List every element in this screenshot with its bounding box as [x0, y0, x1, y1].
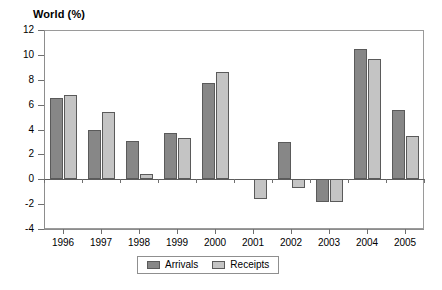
bar-arrivals-2005: [392, 110, 405, 180]
y-axis-line: [44, 30, 45, 229]
y-tick-label: -2: [4, 199, 34, 209]
zero-tick: [424, 179, 425, 183]
x-tick-label: 2002: [280, 238, 302, 248]
y-tick: [38, 55, 44, 56]
y-tick-label: 10: [4, 50, 34, 60]
x-tick-label: 2005: [394, 238, 416, 248]
x-tick-label: 2001: [242, 238, 264, 248]
x-tick: [215, 229, 216, 234]
bar-receipts-1997: [102, 112, 115, 179]
bar-receipts-2002: [292, 179, 305, 188]
y-tick-label: 6: [4, 100, 34, 110]
y-tick-label: 0: [4, 174, 34, 184]
x-tick: [329, 229, 330, 234]
bar-arrivals-2003: [316, 179, 329, 201]
legend-item-arrivals: Arrivals: [147, 260, 198, 270]
x-tick-label: 1996: [52, 238, 74, 248]
zero-tick: [158, 179, 159, 183]
zero-tick: [234, 179, 235, 183]
legend-item-receipts: Receipts: [212, 260, 269, 270]
y-tick: [38, 80, 44, 81]
bar-arrivals-2004: [354, 49, 367, 180]
x-tick: [291, 229, 292, 234]
y-tick-label: 2: [4, 149, 34, 159]
bar-receipts-2003: [330, 179, 343, 201]
x-tick-label: 1998: [128, 238, 150, 248]
zero-tick: [196, 179, 197, 183]
x-tick-label: 2000: [204, 238, 226, 248]
legend-swatch-icon: [147, 261, 160, 269]
bar-receipts-2005: [406, 136, 419, 180]
y-tick-label: 4: [4, 125, 34, 135]
y-tick-label: 12: [4, 25, 34, 35]
x-tick-label: 1997: [90, 238, 112, 248]
y-tick: [38, 204, 44, 205]
bar-arrivals-1997: [88, 130, 101, 180]
bar-arrivals-2000: [202, 83, 215, 179]
zero-tick: [386, 179, 387, 183]
y-tick: [38, 130, 44, 131]
bar-arrivals-1998: [126, 141, 139, 180]
bar-chart: World (%) 121086420-2-4 1996199719981999…: [0, 0, 442, 290]
x-tick: [253, 229, 254, 234]
x-tick: [101, 229, 102, 234]
zero-tick: [82, 179, 83, 183]
y-tick: [38, 105, 44, 106]
chart-title: World (%): [33, 8, 85, 20]
zero-tick: [348, 179, 349, 183]
y-tick: [38, 30, 44, 31]
bar-receipts-2004: [368, 59, 381, 180]
x-tick: [139, 229, 140, 234]
y-tick-label: -4: [4, 224, 34, 234]
chart-legend: ArrivalsReceipts: [137, 256, 279, 274]
x-tick: [63, 229, 64, 234]
legend-label: Arrivals: [165, 260, 198, 270]
bar-arrivals-2002: [278, 142, 291, 179]
bar-receipts-1996: [64, 95, 77, 179]
legend-swatch-icon: [212, 261, 225, 269]
bar-arrivals-1999: [164, 133, 177, 179]
bar-receipts-1998: [140, 174, 153, 179]
bar-receipts-2000: [216, 72, 229, 179]
bar-receipts-2001: [254, 179, 267, 199]
zero-tick: [310, 179, 311, 183]
y-axis-labels: 121086420-2-4: [0, 0, 34, 290]
bar-arrivals-1996: [50, 98, 63, 179]
y-tick: [38, 154, 44, 155]
x-tick-label: 2003: [318, 238, 340, 248]
zero-tick: [44, 179, 45, 183]
bar-receipts-1999: [178, 138, 191, 179]
x-tick-label: 1999: [166, 238, 188, 248]
x-tick: [177, 229, 178, 234]
y-tick-label: 8: [4, 75, 34, 85]
x-tick: [405, 229, 406, 234]
legend-label: Receipts: [230, 260, 269, 270]
x-tick: [367, 229, 368, 234]
zero-tick: [272, 179, 273, 183]
x-tick-label: 2004: [356, 238, 378, 248]
zero-tick: [120, 179, 121, 183]
